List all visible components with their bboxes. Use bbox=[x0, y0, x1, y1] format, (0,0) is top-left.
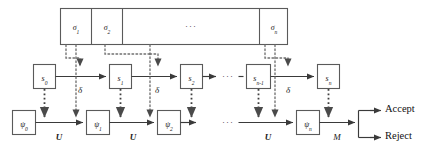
outcome-accept: Accept bbox=[385, 104, 415, 115]
transition-label-0: δ bbox=[78, 86, 82, 95]
state-box-0: s0 bbox=[42, 67, 48, 86]
register-box-3: ψn bbox=[304, 113, 312, 132]
state-box-3: sn-1 bbox=[253, 67, 263, 86]
state-row-ellipsis: ··· bbox=[222, 72, 234, 81]
tape-cell-1: σ2 bbox=[104, 17, 111, 36]
state-box-1: s1 bbox=[118, 67, 124, 86]
state-box-4: sn bbox=[326, 67, 332, 86]
unitary-label-0: U bbox=[56, 133, 63, 142]
figure-canvas: σ1 σ2 ··· σn s0 s1 s2 sn-1 sn δ δ δ ··· … bbox=[0, 0, 422, 153]
tape-cell-ellipsis: ··· bbox=[185, 22, 197, 31]
tape-outline bbox=[61, 9, 288, 45]
unitary-label-1: U bbox=[130, 133, 137, 142]
register-box-1: ψ1 bbox=[94, 113, 102, 132]
register-row-ellipsis: ··· bbox=[222, 118, 234, 127]
transition-label-2: δ bbox=[286, 86, 290, 95]
diagram-vector-layer bbox=[0, 0, 422, 153]
measurement-label: M bbox=[333, 133, 341, 142]
register-box-2: ψ2 bbox=[165, 113, 173, 132]
tape-cell-3: σn bbox=[271, 17, 278, 36]
unitary-label-2: U bbox=[265, 133, 272, 142]
tape-control-sigma1 bbox=[66, 45, 80, 117]
tape-cell-0: σ1 bbox=[73, 17, 80, 36]
outcome-reject: Reject bbox=[385, 131, 412, 142]
measurement-branch bbox=[359, 111, 382, 138]
register-box-0: ψ0 bbox=[20, 113, 28, 132]
transition-label-1: δ bbox=[155, 86, 159, 95]
state-box-2: s2 bbox=[189, 67, 195, 86]
